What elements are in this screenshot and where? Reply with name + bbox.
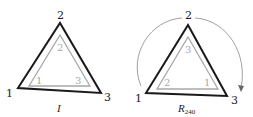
inner-label-left: 2 [164, 77, 170, 88]
identity-figure: 2 1 3 2 1 3 I [6, 9, 111, 114]
symmetry-diagram: 2 1 3 2 1 3 I 2 1 3 3 2 1 R240 [0, 0, 253, 117]
inner-label-top: 2 [57, 42, 63, 53]
inner-label-right: 1 [204, 77, 210, 88]
caption-r240: R240 [177, 102, 196, 116]
outer-label-top: 2 [185, 9, 192, 22]
outer-triangle [146, 25, 227, 96]
outer-label-right: 3 [104, 91, 111, 104]
outer-label-right: 3 [231, 94, 238, 107]
inner-label-right: 3 [75, 75, 81, 86]
outer-label-left: 1 [135, 92, 142, 105]
inner-label-top: 3 [185, 44, 191, 55]
rotation-figure: 2 1 3 3 2 1 R240 [135, 9, 244, 116]
caption-identity: I [56, 102, 62, 114]
outer-label-top: 2 [57, 9, 64, 22]
outer-label-left: 1 [6, 87, 13, 100]
caption-subscript: 240 [185, 108, 196, 116]
inner-label-left: 1 [36, 75, 42, 86]
arrowhead-icon [238, 85, 244, 92]
